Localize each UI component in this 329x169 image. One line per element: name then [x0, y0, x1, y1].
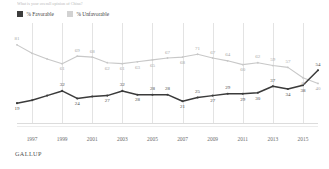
data-point — [182, 56, 184, 58]
data-label: 69 — [75, 48, 80, 53]
data-label: 54 — [316, 62, 321, 67]
data-point — [317, 69, 319, 71]
data-point — [121, 90, 123, 92]
data-label: 61 — [60, 66, 65, 71]
x-tick-2003: 2003 — [117, 133, 128, 145]
data-label: 28 — [135, 97, 140, 102]
data-point — [91, 96, 93, 98]
question-fragment-text: What is your overall opinion of China? — [17, 0, 247, 7]
x-tick-2001: 2001 — [87, 133, 98, 145]
data-label: 29 — [240, 97, 245, 102]
data-point — [46, 95, 48, 97]
data-label: 62 — [105, 66, 110, 71]
data-point — [317, 83, 319, 85]
data-point — [287, 88, 289, 90]
data-label: 38 — [300, 88, 305, 93]
data-label: 59 — [270, 57, 275, 62]
data-point — [212, 57, 214, 59]
data-label: 62 — [255, 54, 260, 59]
data-point — [106, 62, 108, 64]
data-point — [152, 59, 154, 61]
legend-label-favorable: % Favorable — [27, 11, 54, 17]
data-point — [287, 67, 289, 69]
data-label: 25 — [195, 89, 200, 94]
data-label: 37 — [270, 78, 275, 83]
data-label: 32 — [120, 82, 125, 87]
data-label: 67 — [210, 50, 215, 55]
x-axis-labels: 1997199920012003200520072009201120132015 — [11, 133, 322, 145]
data-label: 21 — [180, 104, 185, 109]
chart-page: What is your overall opinion of China? %… — [0, 0, 329, 169]
data-label: 64 — [225, 52, 230, 57]
data-label: 27 — [210, 98, 215, 103]
data-label: 24 — [75, 101, 80, 106]
legend-label-unfavorable: % Unfavorable — [76, 11, 109, 17]
x-tick-2007: 2007 — [177, 133, 188, 145]
data-point — [212, 95, 214, 97]
data-point — [272, 85, 274, 87]
data-point — [91, 56, 93, 58]
x-tick-1997: 1997 — [27, 133, 38, 145]
data-label: 46 — [300, 81, 305, 86]
data-point — [272, 65, 274, 67]
data-label: 61 — [120, 66, 125, 71]
x-tick-2013: 2013 — [267, 133, 278, 145]
data-label: 68 — [180, 60, 185, 65]
data-point — [31, 99, 33, 101]
data-point — [76, 55, 78, 57]
data-point — [106, 95, 108, 97]
data-point — [242, 93, 244, 95]
data-label: 57 — [285, 59, 290, 64]
data-point — [151, 94, 153, 96]
plot-area: 8161696862616365676871676460625957464019… — [11, 23, 322, 131]
x-tick-2011: 2011 — [237, 133, 248, 145]
data-label: 19 — [15, 106, 20, 111]
chart-legend: % Favorable % Unfavorable — [17, 8, 109, 20]
data-label: 68 — [90, 49, 95, 54]
data-label: 40 — [316, 86, 321, 91]
data-label: 28 — [165, 86, 170, 91]
x-tick-2009: 2009 — [207, 133, 218, 145]
data-label: 27 — [105, 98, 110, 103]
data-point — [121, 63, 123, 65]
x-tick-1999: 1999 — [57, 133, 68, 145]
data-point — [227, 93, 229, 95]
data-point — [31, 52, 33, 54]
data-point — [257, 62, 259, 64]
data-label: 63 — [135, 65, 140, 70]
data-label: 28 — [150, 86, 155, 91]
data-point — [242, 64, 244, 66]
data-label: 29 — [225, 85, 230, 90]
data-point — [46, 58, 48, 60]
data-point — [137, 61, 139, 63]
data-point — [16, 44, 18, 46]
legend-item-favorable: % Favorable — [17, 11, 54, 17]
data-label: 67 — [165, 50, 170, 55]
data-label: 30 — [255, 96, 260, 101]
data-point — [257, 92, 259, 94]
data-point — [302, 77, 304, 79]
data-label: 60 — [240, 67, 245, 72]
data-label: 71 — [195, 46, 200, 51]
data-label: 32 — [60, 82, 65, 87]
x-tick-2015: 2015 — [298, 133, 309, 145]
data-point — [197, 53, 199, 55]
legend-item-unfavorable: % Unfavorable — [67, 11, 109, 17]
source-footer: GALLUP — [15, 150, 42, 157]
legend-swatch-favorable — [17, 11, 23, 17]
data-point — [167, 57, 169, 59]
data-point — [61, 63, 63, 65]
data-point — [16, 102, 18, 104]
data-point — [197, 96, 199, 98]
series-lines — [11, 23, 322, 131]
data-point — [182, 100, 184, 102]
data-point — [61, 90, 63, 92]
data-point — [76, 97, 78, 99]
data-point — [166, 94, 168, 96]
x-tick-2005: 2005 — [147, 133, 158, 145]
data-point — [227, 60, 229, 62]
legend-swatch-unfavorable — [67, 11, 73, 17]
data-point — [136, 94, 138, 96]
data-label: 65 — [150, 63, 155, 68]
data-label: 34 — [285, 92, 290, 97]
